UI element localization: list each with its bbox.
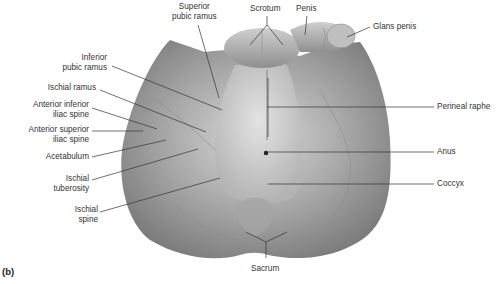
label-coccyx: Coccyx	[437, 179, 464, 189]
label-ischial-tuberosity: Ischial tuberosity	[54, 174, 90, 194]
label-line: Ischial	[54, 174, 90, 184]
label-scrotum: Scrotum	[250, 4, 280, 14]
anus-mark	[264, 151, 268, 155]
label-line: Inferior	[62, 53, 107, 63]
label-inferior-pubic-ramus: Inferior pubic ramus	[62, 53, 107, 73]
body-silhouette	[121, 40, 390, 258]
label-sacrum: Sacrum	[251, 264, 279, 274]
label-anus: Anus	[437, 147, 456, 157]
label-acetabulum: Acetabulum	[46, 152, 89, 162]
label-line: pubic ramus	[172, 12, 217, 22]
label-line: tuberosity	[54, 184, 90, 194]
label-line: Superior	[172, 2, 217, 12]
label-anterior-superior-iliac-spine: Anterior superior iliac spine	[28, 125, 89, 145]
label-ischial-spine: Ischial spine	[75, 205, 98, 225]
label-line: iliac spine	[28, 135, 89, 145]
panel-label: (b)	[2, 266, 14, 277]
label-line: pubic ramus	[62, 63, 107, 73]
label-line: Anterior inferior	[33, 100, 89, 110]
label-line: Ischial	[75, 205, 98, 215]
label-penis: Penis	[296, 4, 316, 14]
label-glans-penis: Glans penis	[373, 22, 416, 32]
label-line: iliac spine	[33, 110, 89, 120]
label-line: Anterior superior	[28, 125, 89, 135]
label-ischial-ramus: Ischial ramus	[48, 83, 96, 93]
label-line: spine	[75, 215, 98, 225]
label-anterior-inferior-iliac-spine: Anterior inferior iliac spine	[33, 100, 89, 120]
label-perineal-raphe: Perineal raphe	[437, 102, 490, 112]
label-superior-pubic-ramus: Superior pubic ramus	[172, 2, 217, 22]
